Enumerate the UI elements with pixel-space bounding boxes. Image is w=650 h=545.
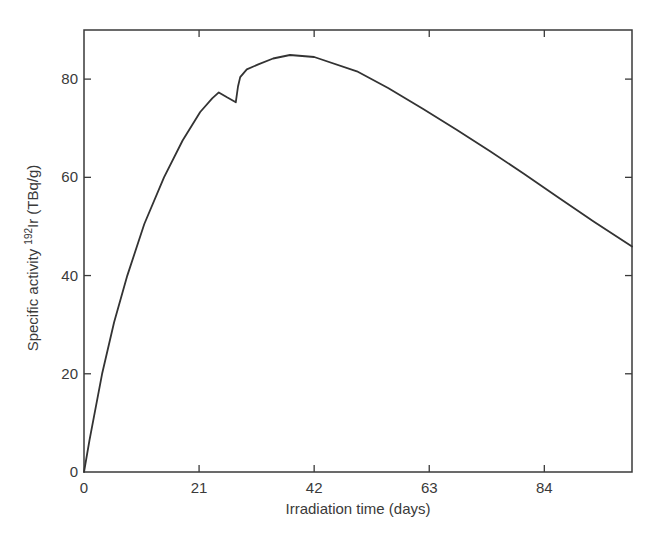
y-tick-label: 80 xyxy=(61,70,78,87)
plot-frame xyxy=(84,30,632,472)
line-chart: 021426384020406080 Irradiation time (day… xyxy=(0,0,650,545)
data-line xyxy=(84,55,632,472)
y-axis-label: Specific activity 192Ir (TBq/g) xyxy=(23,165,41,352)
axis-ticks xyxy=(84,30,632,472)
x-axis-label: Irradiation time (days) xyxy=(285,500,430,517)
y-axis-label-superscript: 192 xyxy=(23,228,34,245)
y-tick-label: 60 xyxy=(61,168,78,185)
x-tick-label: 42 xyxy=(306,479,323,496)
x-tick-label: 84 xyxy=(536,479,553,496)
x-tick-label: 21 xyxy=(191,479,208,496)
y-axis-label-suffix: Ir (TBq/g) xyxy=(24,165,41,228)
y-tick-label: 0 xyxy=(70,463,78,480)
y-axis-label-prefix: Specific activity xyxy=(24,245,41,352)
y-tick-label: 40 xyxy=(61,267,78,284)
axis-tick-labels: 021426384020406080 xyxy=(61,70,552,496)
x-tick-label: 0 xyxy=(80,479,88,496)
x-tick-label: 63 xyxy=(421,479,438,496)
y-tick-label: 20 xyxy=(61,365,78,382)
